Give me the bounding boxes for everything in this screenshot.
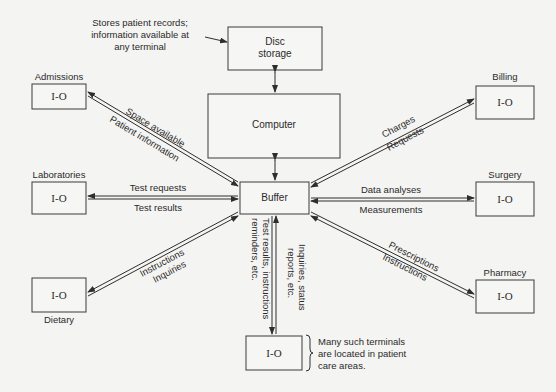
svg-text:any terminal: any terminal [114, 41, 166, 52]
billing-terminal: Billing I-O [476, 71, 534, 119]
svg-text:Stores patient records;: Stores patient records; [92, 17, 188, 28]
computer-node: Computer [208, 94, 340, 158]
patient-care-terminal: I-O [246, 336, 302, 370]
svg-text:Data analyses: Data analyses [361, 184, 421, 195]
disc-note: Stores patient records; information avai… [91, 17, 227, 52]
buffer-to-pharmacy-arrow [311, 212, 474, 294]
svg-text:I-O: I-O [497, 290, 512, 302]
svg-text:I-O: I-O [266, 347, 281, 359]
svg-text:reminders, etc.: reminders, etc. [250, 218, 261, 281]
svg-text:Measurements: Measurements [360, 204, 423, 215]
admissions-name: Admissions [35, 71, 84, 82]
buffer-node: Buffer [240, 182, 309, 214]
buffer-label: Buffer [261, 192, 288, 203]
svg-text:Test requests: Test requests [130, 182, 187, 193]
surgery-name: Surgery [488, 169, 522, 180]
disc-storage-label-2: storage [258, 48, 292, 59]
svg-text:Test results: Test results [134, 202, 182, 213]
brace-icon [306, 335, 313, 371]
billing-name: Billing [492, 71, 517, 82]
disc-storage-node: Disc storage [228, 27, 322, 70]
svg-text:reports, etc.: reports, etc. [286, 248, 297, 298]
laboratories-name: Laboratories [33, 169, 86, 180]
surgery-terminal: Surgery I-O [476, 169, 534, 216]
svg-text:information available at: information available at [91, 29, 189, 40]
dietary-terminal: I-O Dietary [32, 278, 86, 325]
pharmacy-name: Pharmacy [484, 267, 527, 278]
disc-storage-label-1: Disc [265, 36, 284, 47]
terminal-note: Many such terminals are located in patie… [318, 336, 407, 371]
laboratories-terminal: Laboratories I-O [32, 169, 86, 214]
pharmacy-terminal: Pharmacy I-O [476, 267, 534, 313]
svg-text:I-O: I-O [51, 192, 66, 204]
svg-text:are located in patient: are located in patient [318, 348, 407, 359]
admissions-terminal: Admissions I-O [32, 71, 86, 109]
dietary-name: Dietary [44, 314, 74, 325]
svg-text:I-O: I-O [51, 90, 66, 102]
svg-text:Test results, instructions: Test results, instructions [261, 218, 272, 320]
svg-text:I-O: I-O [497, 193, 512, 205]
svg-text:Inquiries, status: Inquiries, status [297, 244, 308, 311]
svg-text:I-O: I-O [497, 96, 512, 108]
svg-text:care areas.: care areas. [318, 360, 366, 371]
disc-note-arrow [205, 37, 227, 42]
computer-label: Computer [252, 119, 297, 130]
svg-text:I-O: I-O [51, 289, 66, 301]
svg-text:Many such terminals: Many such terminals [318, 336, 405, 347]
